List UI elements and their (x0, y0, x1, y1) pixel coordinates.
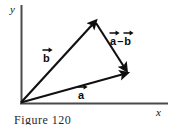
vector-label-b-term: b (43, 47, 50, 64)
vector-label-a-minus-b-first-term: a (110, 30, 116, 47)
vector-label-b-letter: b (43, 53, 50, 64)
vector-label-a: a (78, 84, 84, 101)
vector-label-a-minus-b-second-letter: b (124, 36, 131, 47)
vector-label-a-minus-b: a – b (110, 30, 131, 47)
right-arrow-overbar-icon (42, 47, 53, 53)
right-arrow-overbar-icon (123, 30, 134, 36)
vector-label-b: b (43, 47, 50, 64)
vector-label-a-minus-b-second-term: b (124, 30, 131, 47)
axis-label-y: y (10, 4, 15, 15)
minus-operator: – (116, 36, 124, 47)
vector-diagram-figure: y x b a a – (0, 0, 175, 125)
vector-label-a-term: a (78, 84, 84, 101)
right-arrow-overbar-icon (77, 84, 88, 90)
vector-label-a-minus-b-first-letter: a (110, 36, 116, 47)
figure-caption: Figure 120 (14, 113, 71, 125)
vector-diagram-canvas (0, 0, 175, 125)
right-arrow-overbar-icon (109, 30, 120, 36)
vector-label-a-letter: a (78, 90, 84, 101)
vector-a-line (21, 75, 122, 103)
axis-label-x: x (156, 107, 161, 118)
